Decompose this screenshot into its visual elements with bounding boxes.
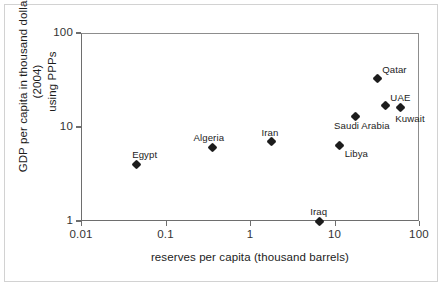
x-axis-tick-label: 100 xyxy=(409,228,429,240)
y-axis-title-line2: using PPPs xyxy=(46,51,58,111)
data-point-label: Egypt xyxy=(132,150,157,160)
y-axis-tick-label: 100 xyxy=(40,26,73,38)
x-axis-tick xyxy=(335,221,336,226)
data-point-label: Libya xyxy=(345,149,368,159)
y-axis-tick-label: 1 xyxy=(40,214,73,226)
x-axis-tick-label: 0.01 xyxy=(69,228,92,240)
x-axis-title: reserves per capita (thousand barrels) xyxy=(81,251,419,263)
x-axis-tick xyxy=(81,221,82,226)
data-point-label: UAE xyxy=(390,93,410,103)
x-axis-tick-label: 10 xyxy=(328,228,341,240)
x-axis-tick-label: 1 xyxy=(247,228,254,240)
x-axis-tick-label: 0.1 xyxy=(157,228,174,240)
x-axis-tick xyxy=(250,221,251,226)
data-point-label: Iran xyxy=(262,128,279,138)
x-axis-tick xyxy=(419,221,420,226)
data-point-label: Qatar xyxy=(382,65,407,75)
data-point-label: Iraq xyxy=(310,207,327,217)
x-axis-tick xyxy=(166,221,167,226)
data-point-label: Kuwait xyxy=(395,114,424,124)
data-point-label: Saudi Arabia xyxy=(334,121,390,131)
figure-container: GDP per capita in thousand dollars (2004… xyxy=(0,0,442,291)
data-point-label: Algeria xyxy=(194,133,225,143)
y-axis-tick-label: 10 xyxy=(40,120,73,132)
